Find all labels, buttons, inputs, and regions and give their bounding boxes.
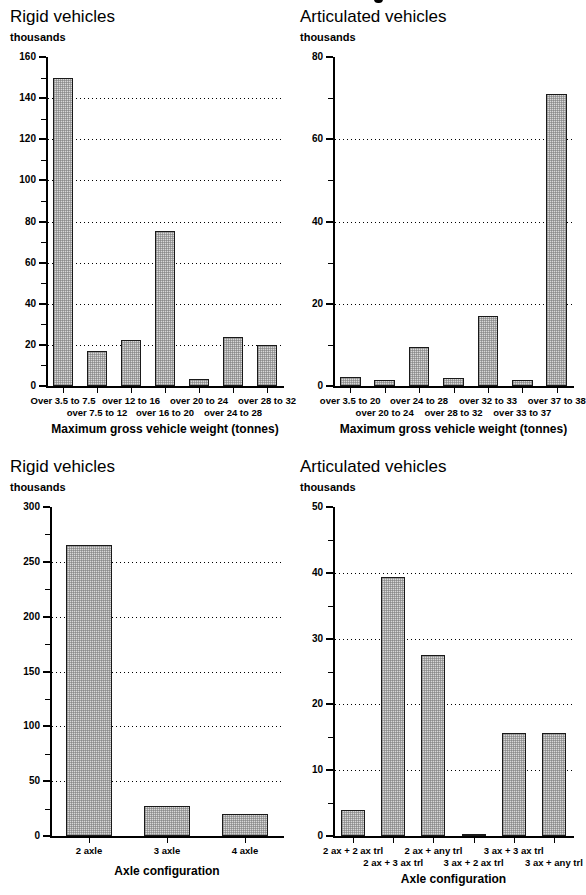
- y-axis-tick: [43, 561, 50, 563]
- y-axis-minor-tick: [328, 540, 333, 541]
- bar: [340, 377, 361, 386]
- x-axis-tick: [385, 388, 386, 393]
- y-axis-line: [333, 507, 335, 837]
- bar: [512, 380, 533, 386]
- x-axis-tick-label: over 12 to 16: [102, 396, 160, 406]
- y-axis-tick: [326, 703, 333, 705]
- y-axis-tick-label: 50: [0, 776, 40, 786]
- gridline: [335, 304, 574, 305]
- x-axis-tick-label: 3 ax + 3 ax trl: [484, 846, 544, 856]
- y-axis-tick-label: 50: [283, 502, 323, 512]
- x-axis-tick: [488, 388, 489, 393]
- gridline: [48, 222, 284, 223]
- y-axis-tick-label: 60: [283, 134, 323, 144]
- y-axis-tick-label: 10: [283, 765, 323, 775]
- y-axis-minor-tick: [45, 644, 50, 645]
- bar: [462, 834, 486, 836]
- y-axis-minor-tick: [328, 98, 333, 99]
- x-axis-tick-label: over 20 to 24: [356, 408, 414, 418]
- y-axis-minor-tick: [328, 803, 333, 804]
- x-axis-tick: [233, 388, 234, 393]
- x-axis-tick-label: over 33 to 37: [493, 408, 551, 418]
- x-axis-tick-label: 2 ax + any trl: [404, 846, 462, 856]
- y-axis-tick-label: 160: [0, 52, 36, 62]
- plot-area: 050100150200250300: [50, 507, 284, 836]
- x-axis-tick-label: Over 3.5 to 7.5: [31, 396, 96, 406]
- y-axis-tick-label: 60: [0, 258, 36, 268]
- y-axis-tick-label: 40: [283, 568, 323, 578]
- gridline: [335, 139, 574, 140]
- plot-area: 020406080100120140160: [46, 57, 284, 386]
- y-axis-tick-label: 0: [0, 381, 36, 391]
- panel-rigid-axle: Rigid vehiclesthousands05010015020025030…: [10, 458, 285, 890]
- x-axis-tick-label: over 16 to 20: [136, 408, 194, 418]
- y-axis-tick: [39, 344, 46, 346]
- y-axis-tick-label: 30: [283, 634, 323, 644]
- bar: [546, 94, 567, 386]
- y-axis-tick: [43, 780, 50, 782]
- y-axis-minor-tick: [328, 672, 333, 673]
- x-axis-tick: [454, 388, 455, 393]
- y-axis-tick-label: 200: [0, 612, 40, 622]
- y-axis-tick: [326, 572, 333, 574]
- x-axis-tick: [514, 838, 515, 843]
- y-axis-minor-tick: [41, 242, 46, 243]
- y-axis-minor-tick: [45, 809, 50, 810]
- y-axis-tick: [39, 179, 46, 181]
- x-axis-tick: [245, 838, 246, 843]
- x-axis-tick-label: over 37 to 38: [528, 396, 586, 406]
- x-axis-tick: [554, 838, 555, 843]
- panel-title: Rigid vehicles: [10, 458, 115, 476]
- bar: [374, 380, 395, 386]
- y-axis-tick: [43, 616, 50, 618]
- x-axis-tick-label: 3 ax + 2 ax trl: [444, 858, 504, 868]
- y-axis-tick-label: 250: [0, 557, 40, 567]
- panel-title: Articulated vehicles: [300, 8, 446, 26]
- y-axis-minor-tick: [328, 180, 333, 181]
- x-axis-tick-label: 3 ax + any trl: [525, 858, 583, 868]
- y-axis-tick-label: 40: [283, 217, 323, 227]
- gridline: [335, 704, 574, 705]
- y-axis-tick: [43, 506, 50, 508]
- x-axis-tick-label: over 20 to 24: [170, 396, 228, 406]
- y-axis-minor-tick: [41, 283, 46, 284]
- gridline: [48, 98, 284, 99]
- y-axis-tick: [326, 638, 333, 640]
- bar: [542, 733, 566, 836]
- y-axis-tick: [39, 56, 46, 58]
- bar: [257, 345, 277, 386]
- y-axis-minor-tick: [328, 606, 333, 607]
- bar: [53, 78, 73, 386]
- gridline: [335, 573, 574, 574]
- x-axis-tick-label: 2 axle: [76, 846, 102, 856]
- y-axis-minor-tick: [328, 737, 333, 738]
- y-axis-tick: [39, 221, 46, 223]
- y-axis-unit-label: thousands: [10, 481, 66, 493]
- x-axis-tick: [393, 838, 394, 843]
- x-axis-tick: [474, 838, 475, 843]
- x-axis-tick: [131, 388, 132, 393]
- x-axis-title: Axle configuration: [401, 872, 506, 886]
- plot-area: 01020304050: [333, 507, 574, 836]
- y-axis-minor-tick: [45, 534, 50, 535]
- bar: [189, 379, 209, 386]
- bar: [144, 806, 191, 836]
- gridline: [335, 222, 574, 223]
- y-axis-tick-label: 0: [283, 831, 323, 841]
- y-axis-tick-label: 120: [0, 134, 36, 144]
- y-axis-minor-tick: [41, 365, 46, 366]
- x-axis-tick-label: 2 ax + 2 ax trl: [323, 846, 383, 856]
- panel-artic-axle: Articulated vehiclesthousands01020304050…: [300, 458, 575, 890]
- x-axis-tick: [89, 838, 90, 843]
- x-axis-tick-label: over 24 to 28: [390, 396, 448, 406]
- x-axis-tick-label: over 3.5 to 20: [320, 396, 381, 406]
- gridline: [335, 639, 574, 640]
- gridline: [335, 770, 574, 771]
- y-axis-tick-label: 80: [0, 217, 36, 227]
- x-axis-tick-label: over 32 to 33: [459, 396, 517, 406]
- y-axis-minor-tick: [45, 699, 50, 700]
- x-axis-tick: [522, 388, 523, 393]
- y-axis-minor-tick: [41, 324, 46, 325]
- gridline: [48, 139, 284, 140]
- gridline: [48, 180, 284, 181]
